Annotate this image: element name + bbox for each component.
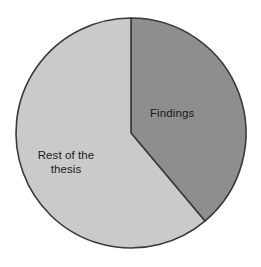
pie-slice-label-findings: Findings [150,107,222,121]
pie-chart-svg [0,0,261,267]
pie-slice-label-rest-of-the-thesis: Rest of the thesis [20,149,112,176]
pie-slices [16,18,246,248]
pie-chart-figure: Findings Rest of the thesis [0,0,261,267]
